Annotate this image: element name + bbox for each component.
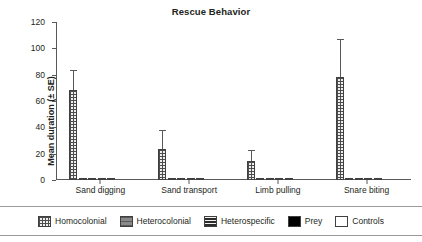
- bar: [256, 178, 264, 180]
- legend-label: Homocolonial: [55, 216, 107, 226]
- legend-swatch-icon: [120, 216, 133, 227]
- y-tick-label: 60: [36, 96, 45, 106]
- y-tick-label: 100: [31, 43, 45, 53]
- legend-item[interactable]: Controls: [335, 216, 384, 227]
- bar: [107, 178, 115, 180]
- y-tick: 0: [52, 180, 56, 181]
- legend-label: Prey: [305, 216, 322, 226]
- bar-group: Snare biting: [322, 22, 411, 180]
- x-tick: [366, 180, 367, 184]
- bar: [345, 178, 353, 180]
- bar: [285, 178, 293, 180]
- legend-item[interactable]: Heterospecific: [204, 216, 275, 227]
- legend-swatch-icon: [288, 216, 301, 227]
- chart-title: Rescue Behavior: [0, 6, 422, 17]
- legend-item[interactable]: Homocolonial: [38, 216, 107, 227]
- bar: [364, 178, 372, 180]
- legend-label: Heterocolonial: [137, 216, 191, 226]
- legend-label: Controls: [352, 216, 384, 226]
- rescue-behavior-figure: Rescue Behavior Mean duration (± SE) 020…: [0, 0, 422, 242]
- error-bar-cap: [248, 150, 255, 151]
- y-tick-label: 120: [31, 17, 45, 27]
- bar: [177, 178, 185, 180]
- y-tick-label: 0: [40, 175, 45, 185]
- x-axis-category-label: Sand digging: [76, 185, 126, 195]
- bar-group: Sand digging: [56, 22, 145, 180]
- bar: [98, 178, 106, 180]
- bar: [336, 77, 344, 180]
- bar: [374, 178, 382, 180]
- chart-legend: HomocolonialHeterocolonialHeterospecific…: [0, 206, 422, 236]
- legend-item[interactable]: Prey: [288, 216, 322, 227]
- error-bar: [340, 40, 341, 76]
- error-bar: [73, 71, 74, 90]
- error-bar: [162, 131, 163, 149]
- error-bar-cap: [70, 70, 77, 71]
- bar: [187, 178, 195, 180]
- legend-swatch-icon: [335, 216, 348, 227]
- error-bar: [251, 151, 252, 161]
- bar: [168, 178, 176, 180]
- legend-swatch-icon: [204, 216, 217, 227]
- legend-item[interactable]: Heterocolonial: [120, 216, 191, 227]
- legend-label: Heterospecific: [221, 216, 275, 226]
- y-tick-label: 20: [36, 149, 45, 159]
- bar-group: Limb pulling: [234, 22, 323, 180]
- bar: [88, 178, 96, 180]
- bar: [196, 178, 204, 180]
- y-axis-label: Mean duration (± SE): [46, 76, 56, 165]
- y-tick-label: 40: [36, 122, 45, 132]
- x-tick: [100, 180, 101, 184]
- bar: [266, 178, 274, 180]
- bar-group: Sand transport: [145, 22, 234, 180]
- error-bar-cap: [337, 39, 344, 40]
- x-tick: [277, 180, 278, 184]
- bar: [275, 178, 283, 180]
- plot-area: 020406080100120Sand diggingSand transpor…: [56, 22, 411, 180]
- bar: [69, 90, 77, 180]
- x-axis-category-label: Sand transport: [161, 185, 217, 195]
- bar: [247, 161, 255, 180]
- bar: [158, 149, 166, 180]
- x-tick: [189, 180, 190, 184]
- y-tick-label: 80: [36, 70, 45, 80]
- error-bar-cap: [159, 130, 166, 131]
- x-axis-category-label: Snare biting: [344, 185, 389, 195]
- x-axis-category-label: Limb pulling: [255, 185, 300, 195]
- legend-swatch-icon: [38, 216, 51, 227]
- bar: [355, 178, 363, 180]
- bar: [79, 178, 87, 180]
